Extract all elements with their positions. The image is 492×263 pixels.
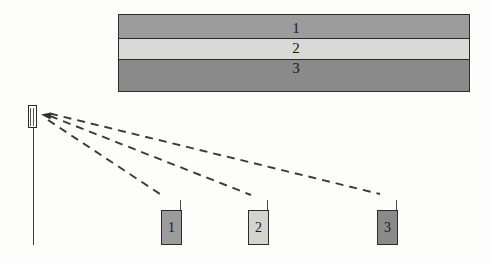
figure-canvas: 1 2 3 1 2 3 (0, 0, 492, 263)
ray-to-receiver-3 (50, 114, 380, 195)
layer-band-1-label: 1 (292, 21, 300, 36)
receiver-1-label: 1 (168, 221, 175, 235)
receiver-1-body: 1 (161, 210, 182, 245)
receiver-3-body: 3 (377, 210, 398, 245)
layer-band-3: 3 (119, 60, 469, 91)
receiver-3-label: 3 (384, 221, 391, 235)
ray-to-receiver-1 (48, 120, 163, 196)
receiver-2-label: 2 (255, 221, 262, 235)
ray-arrowhead-icon (41, 113, 51, 120)
layer-band-1: 1 (119, 15, 469, 39)
layer-band-2: 2 (119, 39, 469, 60)
emitter-box-core (30, 108, 33, 126)
emitter-pole (33, 126, 35, 245)
layered-slab: 1 2 3 (118, 14, 470, 92)
layer-band-3-label: 3 (292, 61, 300, 76)
emitter-box (28, 105, 37, 128)
receiver-2-body: 2 (248, 210, 269, 245)
ray-to-receiver-2 (50, 116, 251, 195)
layer-band-2-label: 2 (292, 41, 300, 56)
